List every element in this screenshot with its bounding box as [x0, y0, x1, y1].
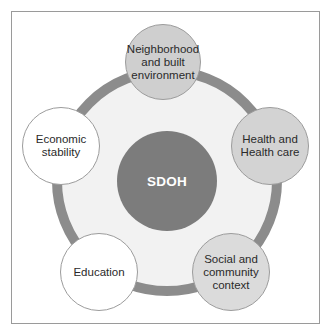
node-label: Health and Health care — [241, 133, 300, 159]
node-neighborhood-and-built-environment: Neighborhood and built environment — [125, 24, 201, 100]
node-label: Neighborhood and built environment — [127, 43, 199, 82]
node-social-and-community-context: Social and community context — [192, 233, 270, 311]
node-label: Social and community context — [203, 253, 259, 292]
hub-circle-sdoh: SDOH — [117, 131, 217, 231]
node-education: Education — [60, 233, 138, 311]
node-label: Education — [73, 266, 124, 279]
node-economic-stability: Economic stability — [22, 107, 100, 185]
node-health-and-health-care: Health and Health care — [231, 107, 309, 185]
hub-label: SDOH — [147, 174, 187, 189]
node-label: Economic stability — [36, 133, 87, 159]
